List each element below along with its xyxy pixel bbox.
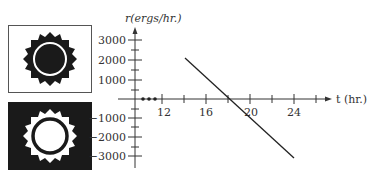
svg-text:−1000: −1000 xyxy=(89,112,126,125)
svg-text:24: 24 xyxy=(287,106,301,119)
y-axis-arrow xyxy=(133,27,138,34)
svg-text:12: 12 xyxy=(157,106,171,119)
svg-text:−2000: −2000 xyxy=(89,131,126,144)
line-chart: r(ergs/hr.) 3000 2000 1000 −1000 −2000 −… xyxy=(0,0,391,179)
x-tick-labels: 12 16 20 24 xyxy=(157,106,301,119)
svg-text:20: 20 xyxy=(244,106,258,119)
x-axis-label: t (hr.) xyxy=(336,93,367,106)
svg-text:16: 16 xyxy=(199,106,213,119)
svg-text:1000: 1000 xyxy=(98,74,126,87)
svg-text:2000: 2000 xyxy=(98,54,126,67)
axis-break-dots xyxy=(141,97,157,101)
svg-text:−3000: −3000 xyxy=(89,150,126,163)
y-axis-label: r(ergs/hr.) xyxy=(125,12,182,25)
svg-text:3000: 3000 xyxy=(98,34,126,47)
x-axis-arrow xyxy=(325,97,332,102)
